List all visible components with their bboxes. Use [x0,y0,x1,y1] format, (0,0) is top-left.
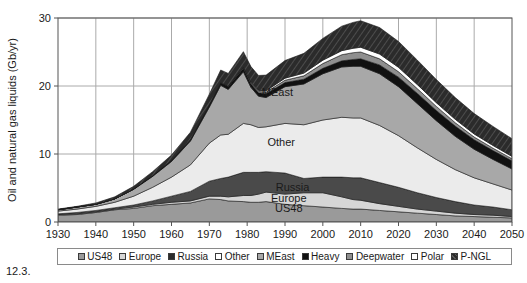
legend-item-polar[interactable]: Polar [411,252,444,262]
x-tick-label: 1970 [197,228,221,240]
legend-swatch-icon [215,253,222,260]
stacked-area-chart: 1930194019501960197019801990200020102020… [0,0,527,283]
x-tick-label: 1960 [159,228,183,240]
legend-item-russia[interactable]: Russia [168,252,208,262]
x-tick-label: 1940 [84,228,108,240]
legend-swatch-icon [411,253,418,260]
series-annotation-russia: Russia [276,181,311,193]
legend-swatch-icon [451,253,458,260]
x-tick-label: 1930 [46,228,70,240]
legend-item-deepwater[interactable]: Deepwater [346,252,404,262]
y-tick-label: 20 [39,80,51,92]
legend-label: Polar [421,252,444,262]
legend-label: P-NGL [461,252,492,262]
y-tick-label: 30 [39,12,51,24]
x-tick-label: 1980 [235,228,259,240]
legend-label: US48 [87,252,112,262]
x-tick-label: 2050 [500,228,524,240]
chart-legend: US48EuropeRussiaOtherMEastHeavyDeepwater… [57,248,512,265]
figure-caption: 12.3. [6,265,30,277]
y-tick-label: 0 [45,216,51,228]
legend-label: MEast [266,252,294,262]
legend-item-p-ngl[interactable]: P-NGL [451,252,491,262]
y-axis-ticks: 0102030 [39,12,58,228]
x-tick-label: 1990 [273,228,297,240]
legend-item-heavy[interactable]: Heavy [302,252,340,262]
legend-label: Europe [129,252,161,262]
legend-swatch-icon [257,253,264,260]
x-tick-label: 2040 [462,228,486,240]
legend-label: Deepwater [356,252,404,262]
x-tick-label: 2020 [386,228,410,240]
legend-label: Russia [178,252,209,262]
legend-item-us48[interactable]: US48 [78,252,113,262]
legend-swatch-icon [78,253,85,260]
x-tick-label: 2030 [424,228,448,240]
legend-swatch-icon [168,253,175,260]
legend-item-meast[interactable]: MEast [257,252,295,262]
x-axis-ticks: 1930194019501960197019801990200020102020… [46,222,524,240]
figure-container: 1930194019501960197019801990200020102020… [0,0,527,283]
legend-swatch-icon [119,253,126,260]
legend-label: Heavy [311,252,339,262]
legend-item-other[interactable]: Other [215,252,250,262]
legend-swatch-icon [346,253,353,260]
y-axis-title: Oil and natural gas liquids (Gb/yr) [6,38,18,202]
series-annotation-meast: MEast [262,86,293,98]
x-tick-label: 1950 [121,228,145,240]
legend-swatch-icon [302,253,309,260]
x-tick-label: 2000 [311,228,335,240]
y-tick-label: 10 [39,148,51,160]
x-tick-label: 2010 [348,228,372,240]
legend-item-europe[interactable]: Europe [119,252,161,262]
series-annotation-other: Other [267,136,295,148]
legend-label: Other [225,252,250,262]
series-annotation-us48: US48 [275,202,303,214]
